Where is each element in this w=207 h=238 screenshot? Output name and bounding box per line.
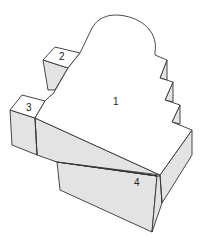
label-3: 3 [26,102,32,113]
label-1: 1 [113,96,119,107]
label-2: 2 [59,51,65,62]
isometric-diagram: 1 2 3 4 [0,0,207,238]
label-4: 4 [134,177,140,188]
